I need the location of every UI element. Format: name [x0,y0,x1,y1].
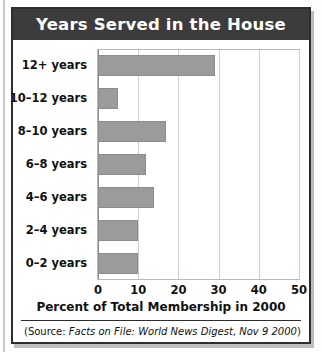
bar-0-2-years [98,253,138,274]
bar-8-10-years [98,121,166,142]
chart-title-bar: Years Served in the House [13,9,309,40]
page-canvas: Years Served in the House 12+ years10–12… [0,0,322,352]
bar-row [97,148,300,181]
category-label: 10–12 years [10,82,87,115]
x-tick-0: 0 [94,283,102,297]
bar-row [97,247,300,280]
bar-row [97,49,300,82]
figure-card: Years Served in the House 12+ years10–12… [11,7,311,344]
bar-2-4-years [98,220,138,241]
x-tick-20: 20 [170,283,186,297]
category-label: 8–10 years [18,115,87,148]
bar-row [97,82,300,115]
x-tick-40: 40 [251,283,267,297]
bar-row [97,115,300,148]
bar-12-years [98,55,215,76]
x-tick-30: 30 [211,283,227,297]
bars-group [97,49,300,280]
category-label: 6–8 years [26,148,87,181]
source-date: Nov 9 2000 [239,326,297,337]
bar-4-6-years [98,187,154,208]
source-publication: Facts on File: World News Digest [69,326,233,337]
source-prefix: (Source: [24,326,69,337]
x-tick-10: 10 [130,283,146,297]
category-label: 0–2 years [26,247,87,280]
x-tick-50: 50 [291,283,307,297]
bar-6-8-years [98,154,146,175]
source-note: (Source: Facts on File: World News Diges… [24,326,301,337]
x-axis-title: Percent of Total Membership in 2000 [13,300,309,314]
bar-10-12-years [98,88,118,109]
page-edge-rule [3,0,5,352]
category-label: 12+ years [22,49,87,82]
x-axis-tick-labels: 01020304050 [97,283,300,299]
source-suffix: ) [297,326,301,337]
chart-body: 12+ years10–12 years8–10 years6–8 years4… [13,40,309,342]
category-label: 4–6 years [26,181,87,214]
source-divider [21,320,301,321]
category-label: 2–4 years [26,214,87,247]
bar-row [97,214,300,247]
category-axis-labels: 12+ years10–12 years8–10 years6–8 years4… [13,49,93,280]
bar-row [97,181,300,214]
chart-title: Years Served in the House [36,15,286,34]
